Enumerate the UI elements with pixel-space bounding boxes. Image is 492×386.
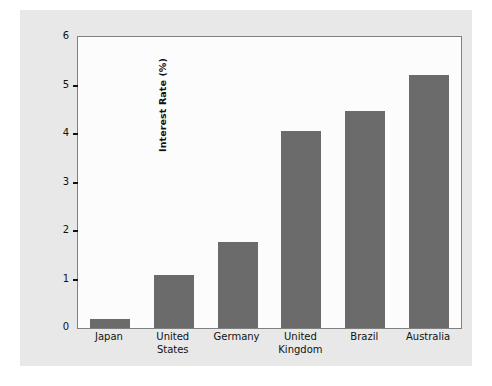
y-axis-tick-label: 1: [63, 273, 69, 284]
y-axis-tick-label: 6: [63, 30, 69, 41]
x-axis-tick-label: Japan: [77, 331, 141, 344]
bars-layer: [78, 37, 461, 328]
bar-slot: [142, 37, 206, 328]
x-axis-tick-labels: JapanUnited StatesGermanyUnited KingdomB…: [77, 331, 460, 371]
y-axis-tick-label: 5: [63, 79, 69, 90]
figure-canvas: Interest Rate (%) 0123456 JapanUnited St…: [20, 10, 472, 366]
bar-slot: [270, 37, 334, 328]
bar[interactable]: [345, 111, 385, 328]
y-axis-tick-label: 2: [63, 224, 69, 235]
bar-slot: [206, 37, 270, 328]
bar[interactable]: [154, 275, 194, 328]
bar-slot: [397, 37, 461, 328]
bar-slot: [333, 37, 397, 328]
x-axis-tick-label: Germany: [205, 331, 269, 344]
y-axis-tick-label: 0: [63, 321, 69, 332]
plot-area: Interest Rate (%) 0123456: [77, 36, 462, 329]
x-axis-tick-label: Australia: [396, 331, 460, 344]
y-axis-tick-label: 4: [63, 127, 69, 138]
bar[interactable]: [90, 319, 130, 328]
x-axis-tick-label: United States: [141, 331, 205, 356]
x-axis-tick-label: Brazil: [332, 331, 396, 344]
bar[interactable]: [218, 242, 258, 328]
x-axis-tick-label: United Kingdom: [269, 331, 333, 356]
bar[interactable]: [409, 75, 449, 328]
y-axis-tick-label: 3: [63, 176, 69, 187]
bar[interactable]: [281, 131, 321, 328]
bar-slot: [78, 37, 142, 328]
